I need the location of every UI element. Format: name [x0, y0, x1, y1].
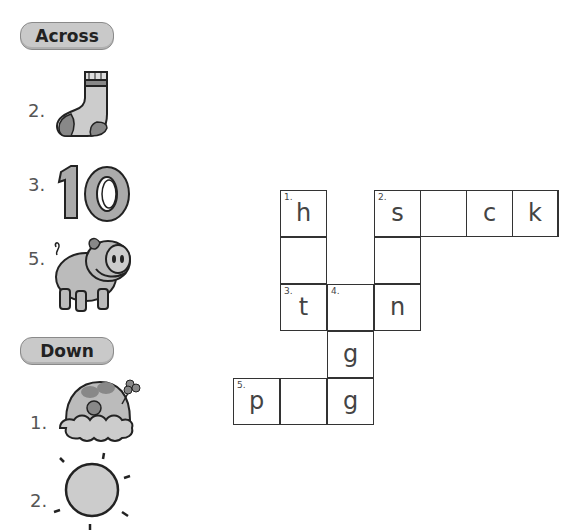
across-clue-2-number: 2. [28, 100, 45, 121]
cell-letter: h [281, 199, 326, 227]
cell-letter: c [467, 199, 512, 227]
cell-letter: g [328, 387, 373, 415]
crossword-cell[interactable]: k [512, 190, 559, 237]
crossword-cell[interactable]: 5. p [233, 378, 280, 425]
cell-letter: p [234, 387, 279, 415]
sun-icon [48, 448, 133, 531]
cell-number: 4. [331, 286, 340, 296]
crossword-cell[interactable] [280, 237, 327, 284]
crossword-cell[interactable]: 4. [327, 284, 374, 331]
cell-letter: s [375, 199, 420, 227]
crossword-cell[interactable]: g [327, 378, 374, 425]
down-clue-1-number: 1. [30, 412, 47, 433]
across-clue-3-number: 3. [28, 174, 45, 195]
cell-letter: k [513, 199, 557, 227]
sock-icon [55, 68, 115, 140]
cell-letter: t [281, 293, 326, 321]
crossword-cell[interactable]: n [374, 284, 421, 331]
across-clue-5-number: 5. [28, 248, 45, 269]
crossword-cell[interactable]: 2. s [374, 190, 421, 237]
crossword-cell[interactable]: g [327, 331, 374, 378]
cell-letter: g [328, 340, 373, 368]
down-heading: Down [20, 337, 114, 365]
cell-letter: n [375, 293, 420, 321]
pig-icon [50, 235, 140, 315]
down-clue-2-number: 2. [30, 490, 47, 511]
across-heading: Across [20, 22, 114, 50]
number-ten-icon [55, 164, 135, 224]
crossword-cell[interactable] [420, 190, 467, 237]
crossword-cell[interactable]: 1. h [280, 190, 327, 237]
crossword-cell[interactable]: c [466, 190, 513, 237]
crossword-cell[interactable] [280, 378, 327, 425]
hat-icon [56, 376, 146, 446]
crossword-cell[interactable] [374, 237, 421, 284]
crossword-cell[interactable]: 3. t [280, 284, 327, 331]
